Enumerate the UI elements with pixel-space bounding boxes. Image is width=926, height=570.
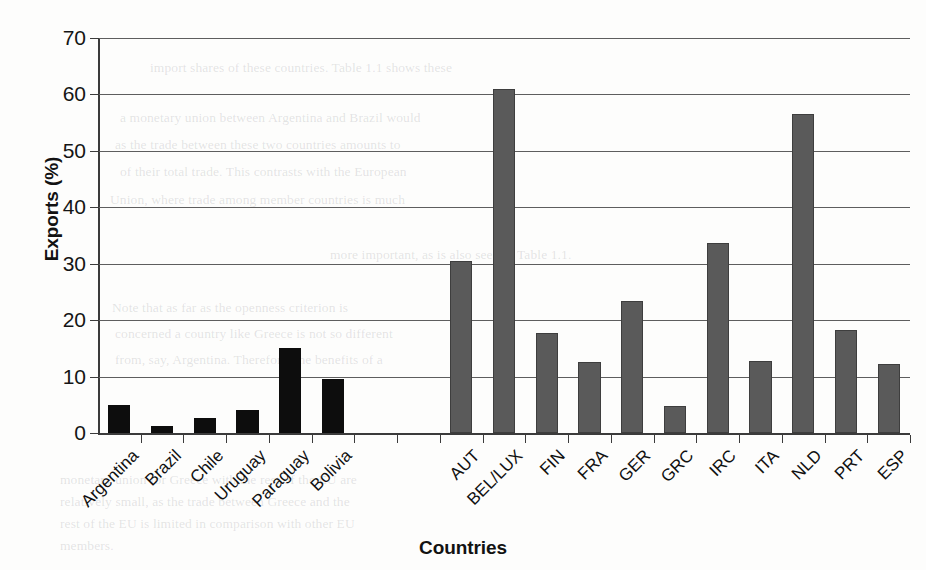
bar[interactable]	[749, 361, 771, 433]
bar[interactable]	[707, 243, 729, 433]
plot-area: 010203040506070 ArgentinaBrazilChileUrug…	[98, 38, 910, 435]
y-tick-label: 0	[74, 421, 86, 445]
x-tick-mark	[739, 435, 740, 443]
bar[interactable]	[878, 364, 900, 433]
x-tick-mark	[269, 435, 270, 443]
bar[interactable]	[108, 405, 130, 433]
x-tick-mark	[825, 435, 826, 443]
x-tick-mark	[483, 435, 484, 443]
y-tick-label: 20	[63, 308, 86, 332]
x-tick-mark	[867, 435, 868, 443]
y-tick-label: 50	[63, 139, 86, 163]
y-tick-label: 30	[63, 252, 86, 276]
y-tick-label: 70	[63, 26, 86, 50]
x-tick-mark	[312, 435, 313, 443]
x-tick-label: Argentina	[77, 446, 143, 512]
bar-chart: Exports (%) Countries 010203040506070 Ar…	[0, 0, 926, 570]
x-tick-mark	[611, 435, 612, 443]
y-tick-mark	[90, 264, 99, 265]
y-axis-label: Exports (%)	[41, 129, 63, 289]
bar[interactable]	[493, 89, 515, 433]
x-tick-mark	[910, 435, 911, 443]
x-tick-mark	[226, 435, 227, 443]
figure-page: import shares of these countries. Table …	[0, 0, 926, 570]
y-tick-label: 10	[63, 365, 86, 389]
x-tick-mark	[568, 435, 569, 443]
bar[interactable]	[536, 333, 558, 433]
x-tick-label: Bolivia	[307, 446, 357, 496]
bar[interactable]	[279, 348, 301, 433]
x-tick-mark	[440, 435, 441, 443]
x-tick-label: GER	[615, 446, 655, 486]
x-tick-label: ESP	[874, 446, 912, 484]
y-tick-mark	[90, 151, 99, 152]
y-tick-mark	[90, 377, 99, 378]
x-tick-label: FIN	[536, 446, 570, 480]
bar[interactable]	[792, 114, 814, 433]
x-tick-mark	[782, 435, 783, 443]
bar[interactable]	[835, 330, 857, 433]
x-tick-label: FRA	[574, 446, 612, 484]
x-tick-label: ITA	[752, 446, 784, 478]
bar[interactable]	[664, 406, 686, 433]
x-tick-mark	[354, 435, 355, 443]
x-tick-label: PRT	[831, 446, 869, 484]
y-tick-label: 40	[63, 195, 86, 219]
bar[interactable]	[450, 261, 472, 433]
x-tick-mark	[696, 435, 697, 443]
x-tick-label: Brazil	[141, 446, 185, 490]
y-tick-mark	[90, 207, 99, 208]
y-tick-mark	[90, 433, 99, 434]
y-tick-mark	[90, 320, 99, 321]
bar[interactable]	[621, 301, 643, 433]
y-tick-mark	[90, 94, 99, 95]
y-axis-line	[98, 38, 100, 435]
x-axis-line	[98, 433, 910, 435]
x-tick-label: IRC	[706, 446, 741, 481]
x-tick-mark	[525, 435, 526, 443]
x-axis-label: Countries	[0, 537, 926, 559]
x-tick-mark	[654, 435, 655, 443]
bar[interactable]	[236, 410, 258, 433]
gridline	[98, 38, 910, 39]
x-tick-label: NLD	[788, 446, 826, 484]
x-tick-mark	[397, 435, 398, 443]
bar[interactable]	[194, 418, 216, 433]
y-tick-mark	[90, 38, 99, 39]
bar[interactable]	[151, 426, 173, 433]
x-tick-mark	[141, 435, 142, 443]
bar[interactable]	[322, 379, 344, 433]
x-tick-label: GRC	[657, 446, 698, 487]
y-tick-label: 60	[63, 82, 86, 106]
x-tick-mark	[183, 435, 184, 443]
bar[interactable]	[578, 362, 600, 433]
